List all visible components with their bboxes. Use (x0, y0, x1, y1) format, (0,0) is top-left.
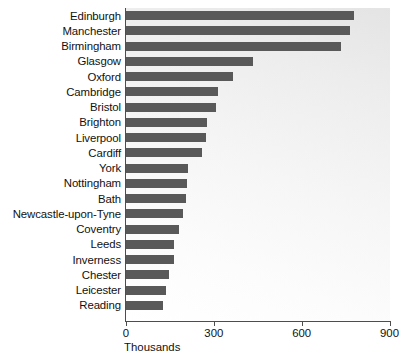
bar-track (126, 72, 233, 81)
bar-row: Cambridge (0, 84, 407, 99)
category-label: Cambridge (0, 86, 121, 98)
x-tick-label: 600 (292, 327, 311, 340)
category-label: Nottingham (0, 177, 121, 189)
bar[interactable] (126, 26, 350, 35)
bar-row: Bristol (0, 100, 407, 115)
bar[interactable] (126, 148, 202, 157)
x-tick-label: 300 (204, 327, 223, 340)
category-label: Inverness (0, 254, 121, 266)
bar[interactable] (126, 87, 218, 96)
bar-row: Birmingham (0, 39, 407, 54)
x-tick-mark (214, 321, 215, 326)
x-tick-label: 900 (380, 327, 399, 340)
bar-rows: EdinburghManchesterBirminghamGlasgowOxfo… (0, 8, 407, 321)
category-label: Manchester (0, 25, 121, 37)
category-label: Newcastle-upon-Tyne (0, 208, 121, 220)
bar[interactable] (126, 240, 174, 249)
category-label: Liverpool (0, 132, 121, 144)
bar-track (126, 133, 206, 142)
bar[interactable] (126, 286, 166, 295)
category-label: Leeds (0, 238, 121, 250)
bar-row: Manchester (0, 23, 407, 38)
category-label: Leicester (0, 284, 121, 296)
bar-track (126, 286, 166, 295)
category-label: Oxford (0, 71, 121, 83)
category-label: Glasgow (0, 55, 121, 67)
bar-track (126, 87, 218, 96)
bar[interactable] (126, 255, 174, 264)
bar-row: Newcastle-upon-Tyne (0, 206, 407, 221)
category-label: Birmingham (0, 40, 121, 52)
bar-track (126, 118, 207, 127)
bar[interactable] (126, 270, 169, 279)
bar-row: Glasgow (0, 54, 407, 69)
bar[interactable] (126, 301, 163, 310)
bar-row: Chester (0, 267, 407, 282)
x-axis-title: Thousands (124, 341, 180, 354)
bar-track (126, 194, 186, 203)
bar-track (126, 209, 183, 218)
bar[interactable] (126, 179, 187, 188)
x-tick-mark (390, 321, 391, 326)
bar-track (126, 42, 341, 51)
bar[interactable] (126, 194, 186, 203)
bar[interactable] (126, 11, 354, 20)
category-label: York (0, 162, 121, 174)
bar-track (126, 26, 350, 35)
bar-row: York (0, 161, 407, 176)
x-tick-label: 0 (123, 327, 129, 340)
bar[interactable] (126, 118, 207, 127)
bar[interactable] (126, 72, 233, 81)
category-label: Bath (0, 193, 121, 205)
bar-track (126, 179, 187, 188)
bar-row: Nottingham (0, 176, 407, 191)
bar[interactable] (126, 209, 183, 218)
bar[interactable] (126, 225, 179, 234)
x-tick-mark (302, 321, 303, 326)
bar[interactable] (126, 42, 341, 51)
category-label: Edinburgh (0, 10, 121, 22)
x-tick-mark (126, 321, 127, 326)
category-label: Cardiff (0, 147, 121, 159)
category-label: Coventry (0, 223, 121, 235)
bar-row: Edinburgh (0, 8, 407, 23)
bar[interactable] (126, 57, 253, 66)
bar-row: Liverpool (0, 130, 407, 145)
bar-track (126, 11, 354, 20)
bar-track (126, 225, 179, 234)
bar-track (126, 103, 216, 112)
bar-track (126, 57, 253, 66)
category-label: Bristol (0, 101, 121, 113)
bar[interactable] (126, 133, 206, 142)
bar-track (126, 270, 169, 279)
category-label: Reading (0, 299, 121, 311)
category-label: Chester (0, 269, 121, 281)
bar-track (126, 164, 188, 173)
category-label: Brighton (0, 116, 121, 128)
bar-row: Bath (0, 191, 407, 206)
bar-row: Oxford (0, 69, 407, 84)
bar-track (126, 255, 174, 264)
bar-row: Coventry (0, 222, 407, 237)
bar-row: Brighton (0, 115, 407, 130)
bar[interactable] (126, 103, 216, 112)
bar-track (126, 240, 174, 249)
bar-row: Reading (0, 298, 407, 313)
bar-track (126, 148, 202, 157)
bar[interactable] (126, 164, 188, 173)
bar-track (126, 301, 163, 310)
bar-row: Inverness (0, 252, 407, 267)
bar-row: Cardiff (0, 145, 407, 160)
bar-row: Leicester (0, 283, 407, 298)
bar-row: Leeds (0, 237, 407, 252)
bar-chart: EdinburghManchesterBirminghamGlasgowOxfo… (0, 0, 407, 359)
